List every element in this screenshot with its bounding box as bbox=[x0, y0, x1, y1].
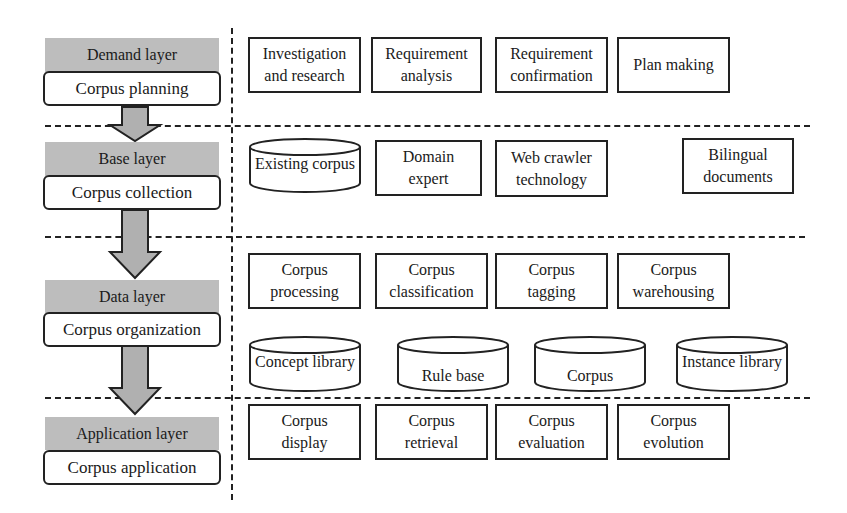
arrow-down-icon bbox=[100, 346, 170, 416]
database-label: Corpus bbox=[533, 367, 647, 385]
layer-header-base: Base layer bbox=[45, 142, 219, 176]
box-corpus-processing: Corpus processing bbox=[248, 253, 361, 309]
database-instance-library: Instance library bbox=[675, 335, 789, 393]
database-rule-base: Rule base bbox=[396, 335, 510, 393]
box-domain-expert: Domain expert bbox=[375, 140, 482, 196]
database-label: Concept library bbox=[248, 353, 362, 371]
box-corpus-evolution: Corpus evolution bbox=[617, 404, 730, 460]
database-label: Instance library bbox=[675, 353, 789, 371]
box-corpus-display: Corpus display bbox=[248, 404, 361, 460]
arrow-down-icon bbox=[100, 210, 170, 282]
box-plan-making: Plan making bbox=[617, 37, 730, 93]
database-label: Rule base bbox=[396, 367, 510, 385]
box-corpus-warehousing: Corpus warehousing bbox=[617, 253, 730, 309]
arrow-down-icon bbox=[100, 105, 170, 145]
box-corpus-evaluation: Corpus evaluation bbox=[495, 404, 608, 460]
stage-corpus-application: Corpus application bbox=[43, 450, 221, 485]
stage-corpus-organization: Corpus organization bbox=[43, 312, 221, 347]
layer-header-data: Data layer bbox=[45, 280, 219, 313]
database-corpus: Corpus bbox=[533, 335, 647, 393]
vertical-divider bbox=[231, 28, 233, 500]
box-bilingual-documents: Bilingual documents bbox=[682, 138, 794, 194]
box-web-crawler-technology: Web crawler technology bbox=[495, 140, 608, 197]
box-corpus-retrieval: Corpus retrieval bbox=[375, 404, 488, 460]
box-requirement-analysis: Requirement analysis bbox=[371, 37, 482, 93]
layer-header-demand: Demand layer bbox=[45, 38, 219, 72]
stage-corpus-collection: Corpus collection bbox=[43, 175, 221, 210]
database-label: Existing corpus bbox=[248, 155, 362, 173]
box-corpus-classification: Corpus classification bbox=[375, 253, 488, 309]
box-corpus-tagging: Corpus tagging bbox=[495, 253, 608, 309]
box-requirement-confirmation: Requirement confirmation bbox=[495, 37, 608, 93]
stage-corpus-planning: Corpus planning bbox=[43, 71, 221, 106]
database-existing-corpus: Existing corpus bbox=[248, 137, 362, 195]
box-investigation-research: Investigation and research bbox=[248, 37, 361, 93]
layer-header-application: Application layer bbox=[45, 417, 219, 450]
database-concept-library: Concept library bbox=[248, 335, 362, 393]
